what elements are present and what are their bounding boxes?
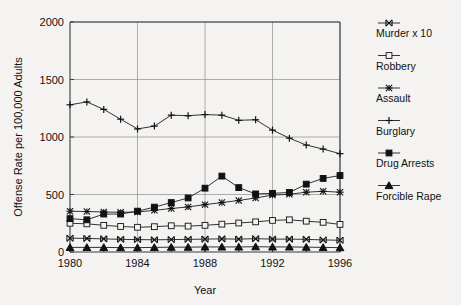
legend-label: Assault <box>376 92 411 104</box>
series-marker-open-square <box>202 222 208 228</box>
legend-item-assault[interactable]: Assault <box>376 85 411 104</box>
series-marker-asterisk <box>66 208 73 214</box>
series-marker-open-square <box>219 221 225 227</box>
x-tick-label: 1980 <box>58 257 82 269</box>
series-marker-asterisk <box>320 188 327 194</box>
legend-label: Burglary <box>376 125 416 137</box>
series-marker-filled-square <box>337 173 343 179</box>
series-marker-plus <box>269 127 276 134</box>
series-marker-filled-square <box>202 185 208 191</box>
series-marker-filled-square <box>253 191 259 197</box>
series-marker-filled-square <box>320 176 326 182</box>
series-marker-open-square <box>253 219 259 225</box>
series-marker-filled-square <box>270 190 276 196</box>
series-marker-plus <box>218 112 225 119</box>
series-marker-filled-square <box>118 211 124 217</box>
series-marker-open-square <box>185 223 191 229</box>
series-marker-open-square <box>337 222 343 228</box>
series-marker-plus <box>168 112 175 119</box>
series-marker-asterisk <box>336 189 343 195</box>
series-marker-open-square <box>286 217 292 223</box>
y-axis-title: Offense Rate per 100,000 Adults <box>12 57 24 217</box>
series-marker-open-square <box>386 53 392 59</box>
x-tick-label: 1996 <box>328 257 352 269</box>
x-tick-label: 1984 <box>125 257 149 269</box>
series-marker-filled-square <box>303 181 309 187</box>
series-marker-open-square <box>303 218 309 224</box>
legend-item-burglary[interactable]: Burglary <box>376 117 416 137</box>
offense-rate-line-chart: 050010001500200019801984198819921996 Mur… <box>0 0 461 305</box>
series-marker-open-square <box>151 224 157 230</box>
series-marker-plus <box>337 150 344 157</box>
series-marker-asterisk <box>168 205 175 211</box>
x-tick-label: 1992 <box>260 257 284 269</box>
series-marker-filled-square <box>386 150 392 156</box>
series-marker-plus <box>303 142 310 149</box>
series-forcible-rape <box>66 243 344 251</box>
legend-label: Drug Arrests <box>376 157 434 169</box>
series-marker-filled-square <box>151 204 157 210</box>
legend-item-drug-arrests[interactable]: Drug Arrests <box>376 150 434 169</box>
series-marker-open-square <box>101 222 107 228</box>
series-marker-asterisk <box>385 85 392 91</box>
series-marker-plus <box>202 111 209 118</box>
y-tick-label: 2000 <box>40 16 64 28</box>
legend-item-forcible-rape[interactable]: Forcible Rape <box>376 182 442 202</box>
series-marker-filled-square <box>185 195 191 201</box>
series-marker-open-square <box>118 224 124 230</box>
series-marker-open-square <box>236 220 242 226</box>
series-marker-filled-square <box>219 173 225 179</box>
series-marker-plus <box>67 101 74 108</box>
series-marker-asterisk <box>218 199 225 205</box>
series-marker-open-square <box>320 219 326 225</box>
series-marker-plus <box>320 146 327 153</box>
series-marker-plus <box>386 117 393 124</box>
legend-label: Forcible Rape <box>376 190 442 202</box>
legend-label: Murder x 10 <box>376 27 432 39</box>
series-marker-asterisk <box>201 202 208 208</box>
series-marker-filled-square <box>236 185 242 191</box>
series-marker-filled-square <box>101 211 107 217</box>
chart-legend: Murder x 10RobberyAssaultBurglaryDrug Ar… <box>376 20 442 202</box>
x-axis-title: Year <box>194 284 217 296</box>
series-marker-asterisk <box>235 197 242 203</box>
series-marker-filled-square <box>67 216 73 222</box>
series-marker-plus <box>100 106 107 113</box>
legend-label: Robbery <box>376 60 416 72</box>
series-marker-open-square <box>270 217 276 223</box>
series-marker-filled-square <box>135 208 141 214</box>
series-marker-plus <box>235 117 242 124</box>
x-tick-label: 1988 <box>193 257 217 269</box>
series-marker-filled-square <box>84 217 90 223</box>
offense-rate-chart-figure: 050010001500200019801984198819921996 Mur… <box>0 0 461 305</box>
series-marker-open-square <box>135 224 141 230</box>
series-marker-plus <box>185 112 192 119</box>
series-marker-plus <box>134 125 141 132</box>
legend-item-murder-x-10[interactable]: Murder x 10 <box>376 20 432 39</box>
y-tick-label: 1500 <box>40 74 64 86</box>
series-marker-asterisk <box>83 208 90 214</box>
y-tick-label: 500 <box>46 189 64 201</box>
series-marker-open-square <box>168 223 174 229</box>
grid-lines <box>70 22 340 252</box>
series-marker-asterisk <box>303 189 310 195</box>
series-marker-plus <box>252 116 259 123</box>
axis-tick-labels: 050010001500200019801984198819921996 <box>40 16 353 269</box>
y-tick-label: 1000 <box>40 131 64 143</box>
series-marker-plus <box>151 123 158 130</box>
series-marker-filled-square <box>286 190 292 196</box>
series-marker-filled-square <box>168 200 174 206</box>
series-marker-plus <box>117 116 124 123</box>
legend-item-robbery[interactable]: Robbery <box>376 53 416 72</box>
series-marker-plus <box>83 98 90 105</box>
series-marker-asterisk <box>185 204 192 210</box>
series-marker-plus <box>286 135 293 142</box>
